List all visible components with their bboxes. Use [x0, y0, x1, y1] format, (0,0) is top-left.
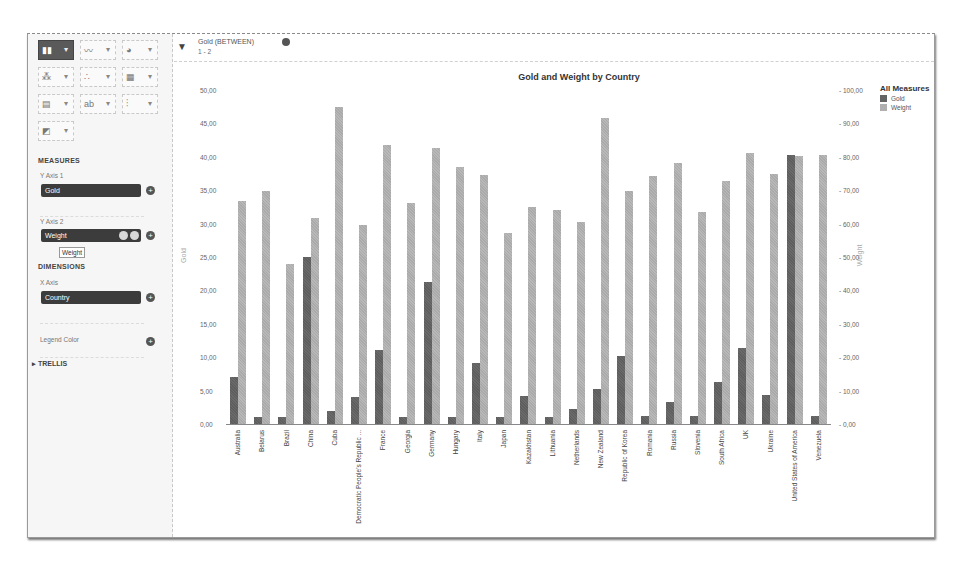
filter-icon[interactable]: ▼ [177, 41, 187, 52]
weight-bar[interactable] [698, 212, 706, 424]
gold-bar[interactable] [787, 155, 795, 424]
gold-bar[interactable] [690, 416, 698, 424]
bar-group [686, 91, 710, 424]
weight-bar[interactable] [359, 225, 367, 424]
gold-bar[interactable] [448, 417, 456, 424]
legend-item-gold[interactable]: Gold [880, 95, 929, 102]
weight-bar[interactable] [432, 148, 440, 424]
chevron-down-icon[interactable]: ▾ [106, 72, 110, 81]
tag-cloud-icon: ab [84, 99, 94, 109]
weight-bar[interactable] [383, 145, 391, 424]
weight-bar[interactable] [601, 118, 609, 424]
chevron-down-icon[interactable]: ▾ [106, 45, 110, 54]
weight-bar[interactable] [480, 175, 488, 424]
weight-measure-pill[interactable]: Weight [41, 229, 141, 242]
gold-bar[interactable] [424, 282, 432, 424]
pie-chart-button[interactable]: ◕▾ [122, 40, 158, 60]
weight-bar[interactable] [456, 167, 464, 424]
combo-chart-icon: ◩ [42, 126, 51, 136]
gold-bar[interactable] [496, 417, 504, 424]
gold-bar[interactable] [593, 389, 601, 424]
country-dimension-pill[interactable]: Country [41, 291, 141, 304]
box-plot-button[interactable]: ⫶▾ [122, 94, 158, 114]
x-axis-dropzone[interactable] [40, 306, 144, 324]
legend-item-weight[interactable]: Weight [880, 104, 929, 111]
y-axis-2-label: Y Axis 2 [40, 218, 63, 225]
chevron-down-icon[interactable]: ▾ [148, 45, 152, 54]
x-tick-label: France [379, 430, 386, 450]
weight-bar[interactable] [770, 174, 778, 424]
weight-bar[interactable] [335, 107, 343, 424]
chevron-down-icon[interactable]: ▾ [64, 45, 68, 54]
filter-title[interactable]: Gold (BETWEEN) [198, 38, 254, 45]
weight-bar[interactable] [649, 176, 657, 424]
chevron-down-icon[interactable]: ▾ [64, 126, 68, 135]
add-y-axis-2-button[interactable]: + [146, 231, 155, 240]
gear-icon[interactable] [119, 231, 128, 240]
weight-bar[interactable] [625, 191, 633, 424]
weight-bar[interactable] [553, 210, 561, 424]
y-axis-1-dropzone[interactable] [40, 199, 144, 217]
heatmap-chart-button[interactable]: ▦▾ [122, 67, 158, 87]
weight-bar[interactable] [795, 156, 803, 424]
gold-bar[interactable] [375, 350, 383, 424]
chevron-down-icon[interactable]: ▾ [148, 99, 152, 108]
gold-bar[interactable] [617, 356, 625, 424]
pivot-table-button[interactable]: ▤▾ [38, 94, 74, 114]
bubble-chart-button[interactable]: ∴▾ [80, 67, 116, 87]
gold-bar[interactable] [303, 257, 311, 424]
tag-cloud-button[interactable]: ab▾ [80, 94, 116, 114]
y2-tick-label: - 80,00 [839, 154, 859, 161]
bar-group [395, 91, 419, 424]
remove-filter-icon[interactable] [282, 38, 290, 46]
gold-bar[interactable] [666, 402, 674, 424]
legend-color-dropzone[interactable] [40, 340, 144, 358]
add-y-axis-1-button[interactable]: + [146, 186, 155, 195]
gold-bar[interactable] [738, 348, 746, 424]
combo-chart-button[interactable]: ◩▾ [38, 121, 74, 141]
gold-bar[interactable] [714, 382, 722, 424]
close-icon[interactable] [130, 231, 139, 240]
gold-bar[interactable] [762, 395, 770, 424]
gold-bar[interactable] [811, 416, 819, 424]
x-tick-label: Netherlands [573, 430, 580, 465]
chevron-down-icon[interactable]: ▾ [148, 72, 152, 81]
weight-bar[interactable] [746, 153, 754, 424]
gold-measure-pill[interactable]: Gold [41, 184, 141, 197]
gold-bar[interactable] [399, 417, 407, 424]
chevron-down-icon[interactable]: ▾ [64, 72, 68, 81]
scatter-chart-button[interactable]: ⁂▾ [38, 67, 74, 87]
weight-bar[interactable] [674, 163, 682, 424]
weight-bar[interactable] [722, 181, 730, 424]
weight-bar[interactable] [819, 155, 827, 424]
add-legend-color-button[interactable]: + [146, 337, 155, 346]
weight-bar[interactable] [238, 201, 246, 424]
gold-bar[interactable] [254, 417, 262, 424]
gold-bar[interactable] [641, 416, 649, 424]
gold-bar[interactable] [327, 411, 335, 424]
gold-bar[interactable] [545, 417, 553, 424]
weight-bar[interactable] [504, 233, 512, 424]
chevron-down-icon[interactable]: ▾ [106, 99, 110, 108]
line-chart-button[interactable]: 〰▾ [80, 40, 116, 60]
trellis-section-toggle[interactable]: ▸ TRELLIS [32, 360, 67, 368]
gold-bar[interactable] [230, 377, 238, 424]
bar-chart-button[interactable]: ▮▮▾ [38, 40, 74, 60]
gold-bar[interactable] [278, 417, 286, 424]
weight-bar[interactable] [577, 222, 585, 424]
add-x-axis-button[interactable]: + [146, 293, 155, 302]
x-tick-label: Brazil [283, 430, 290, 446]
gold-bar[interactable] [520, 396, 528, 424]
chevron-down-icon[interactable]: ▾ [64, 99, 68, 108]
weight-bar[interactable] [311, 218, 319, 424]
weight-bar[interactable] [286, 264, 294, 424]
gold-bar[interactable] [569, 409, 577, 424]
gold-bar[interactable] [351, 397, 359, 424]
y2-tick-label: - 70,00 [839, 187, 859, 194]
x-tick-label: Georgia [404, 430, 411, 453]
weight-bar[interactable] [528, 207, 536, 424]
weight-bar[interactable] [407, 203, 415, 424]
gold-bar[interactable] [472, 363, 480, 424]
weight-bar[interactable] [262, 191, 270, 424]
visualization-editor: ▮▮▾〰▾◕▾⁂▾∴▾▦▾▤▾ab▾⫶▾◩▾ MEASURES Y Axis 1… [27, 33, 935, 538]
